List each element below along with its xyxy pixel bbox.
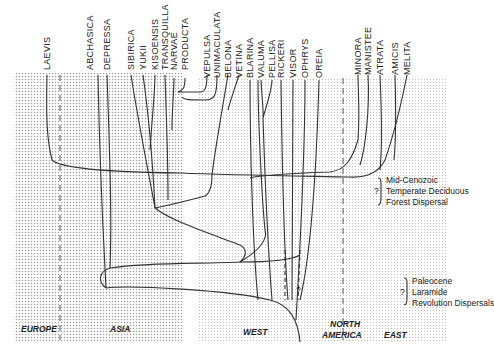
annotation-upper-3: Forest Dispersal bbox=[386, 197, 448, 207]
taxon-manistee: MANISTEE bbox=[363, 27, 373, 75]
uncertain-mark: ? bbox=[296, 285, 301, 295]
taxon-amicis: AMICIS bbox=[390, 42, 400, 75]
taxon-sibirica: SIBIRICA bbox=[126, 29, 136, 70]
region-north-america-line2: AMERICA bbox=[321, 330, 362, 340]
taxon-valuma: VALUMA bbox=[256, 40, 266, 78]
taxon-minora: MINORA bbox=[353, 37, 363, 75]
taxon-belona: BELONA bbox=[223, 40, 233, 78]
annotation-upper-1: Mid-Cenozoic bbox=[386, 175, 439, 185]
taxon-labels: LAEVIS ABCHASICA DEPRESSA SIBIRICA YUKII… bbox=[42, 4, 412, 78]
taxon-oreia: OREIA bbox=[314, 48, 324, 78]
taxon-unimaculata: UNIMACULATA bbox=[212, 12, 222, 78]
region-asia: ASIA bbox=[109, 324, 130, 334]
diagram-canvas: LAEVIS ABCHASICA DEPRESSA SIBIRICA YUKII… bbox=[0, 0, 494, 359]
taxon-visor: VISOR bbox=[288, 48, 298, 78]
annotation-upper-2: Temperate Deciduous bbox=[386, 186, 469, 196]
taxon-blarina: BLARINA bbox=[245, 37, 255, 78]
taxon-yukii: YUKII bbox=[138, 45, 148, 70]
taxon-vetina: VETINA bbox=[234, 44, 244, 78]
region-europe: EUROPE bbox=[21, 324, 57, 334]
taxon-depressa: DEPRESSA bbox=[102, 19, 112, 70]
phylogeny-diagram: LAEVIS ABCHASICA DEPRESSA SIBIRICA YUKII… bbox=[0, 0, 494, 359]
north-america-region bbox=[199, 79, 446, 341]
taxon-narvae: NARVAE bbox=[169, 32, 179, 70]
annotation-lower-2: Laramide bbox=[412, 287, 448, 297]
taxon-vepulsa: VEPULSA bbox=[202, 34, 212, 78]
taxon-atrata: ATRATA bbox=[375, 40, 385, 75]
taxon-rickeri: RICKERI bbox=[276, 39, 286, 78]
annotation-upper-question: ? bbox=[374, 186, 379, 196]
annotation-lower-1: Paleocene bbox=[412, 276, 452, 286]
region-west: WEST bbox=[243, 327, 268, 337]
taxon-kisoensis: KISOENSIS bbox=[150, 19, 160, 70]
region-east: EAST bbox=[384, 330, 407, 340]
taxon-producta: PRODUCTA bbox=[180, 18, 190, 70]
annotation-lower-question: ? bbox=[400, 287, 405, 297]
annotation-lower-3: Revolution Dispersals bbox=[412, 298, 494, 308]
taxon-abchasica: ABCHASICA bbox=[85, 15, 95, 70]
taxon-ophrys: OPHRYS bbox=[300, 38, 310, 78]
taxon-melita: MELITA bbox=[402, 41, 412, 75]
region-north-america-line1: NORTH bbox=[330, 319, 361, 329]
taxon-laevis: LAEVIS bbox=[42, 37, 52, 70]
